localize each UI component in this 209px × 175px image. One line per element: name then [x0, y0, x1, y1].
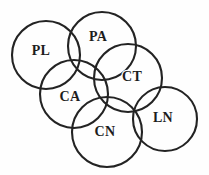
label-pl: PL	[32, 43, 51, 58]
label-ct: CT	[122, 69, 142, 84]
label-cn: CN	[95, 124, 116, 139]
venn-diagram-figure: PL PA CT CA CN LN	[0, 0, 209, 175]
venn-diagram-canvas: PL PA CT CA CN LN	[0, 0, 209, 175]
label-group: PL PA CT CA CN LN	[32, 29, 173, 139]
label-pa: PA	[89, 29, 108, 44]
label-ln: LN	[153, 110, 173, 125]
label-ca: CA	[60, 89, 81, 104]
